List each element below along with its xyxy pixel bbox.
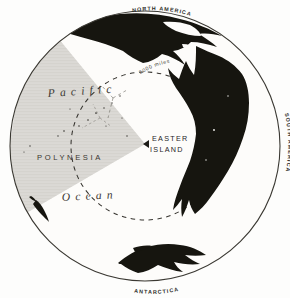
- label-easter-island-line1: EASTER: [152, 134, 189, 143]
- hemisphere-map-figure: NORTH AMERICA SOUTH AMERICA ANTARCTICA 2…: [0, 0, 290, 298]
- label-region-polynesia: POLYNESIA: [37, 153, 103, 162]
- globe-interior: [9, 11, 280, 281]
- label-easter-island-line2: ISLAND: [150, 145, 184, 154]
- map-canvas: NORTH AMERICA SOUTH AMERICA ANTARCTICA 2…: [0, 0, 290, 298]
